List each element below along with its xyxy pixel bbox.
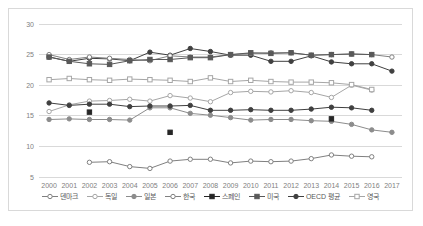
legend-item-label: 영국 — [367, 191, 379, 201]
legend-marker-icon — [288, 192, 304, 201]
data-point-marker — [269, 108, 273, 112]
data-point-marker — [370, 62, 374, 66]
legend-marker-icon — [204, 192, 220, 201]
data-point-marker — [269, 160, 273, 164]
data-point-marker — [269, 90, 273, 94]
data-point-marker — [47, 101, 51, 105]
data-point-marker — [168, 93, 172, 97]
data-point-marker — [228, 52, 232, 56]
data-point-marker — [269, 79, 273, 83]
y-axis-tick-label: 20 — [26, 82, 34, 89]
legend-item-3[interactable]: 일본 — [126, 191, 156, 201]
data-point-marker — [309, 118, 313, 122]
data-point-marker — [148, 77, 152, 81]
data-point-marker — [168, 57, 172, 61]
data-point-marker — [87, 117, 91, 121]
legend-item-1[interactable]: 덴마크 — [42, 191, 78, 201]
data-point-marker — [87, 102, 91, 106]
legend-item-6[interactable]: 미국 — [249, 191, 279, 201]
data-point-marker — [228, 79, 232, 83]
data-point-marker — [370, 87, 374, 91]
data-point-marker — [289, 51, 293, 55]
data-point-marker — [148, 50, 152, 54]
legend-marker-icon — [42, 192, 58, 201]
data-point-marker — [188, 157, 192, 161]
data-point-marker — [168, 104, 172, 108]
chart-container: 5101520253020002001200220032004200520062… — [8, 8, 413, 211]
data-point-marker — [349, 122, 353, 126]
data-point-marker — [87, 110, 91, 114]
data-point-marker — [370, 155, 374, 159]
data-point-marker — [390, 69, 394, 73]
data-point-marker — [349, 106, 353, 110]
data-point-marker — [87, 62, 91, 66]
data-point-marker — [87, 55, 91, 59]
data-point-marker — [188, 103, 192, 107]
data-point-marker — [107, 102, 111, 106]
data-point-marker — [349, 52, 353, 56]
data-point-marker — [148, 104, 152, 108]
data-point-marker — [309, 80, 313, 84]
data-point-marker — [228, 115, 232, 119]
data-point-marker — [390, 130, 394, 134]
series-영국 — [47, 76, 374, 92]
data-point-marker — [370, 52, 374, 56]
data-point-marker — [148, 99, 152, 103]
data-point-marker — [289, 59, 293, 63]
legend-item-5[interactable]: 스페인 — [204, 191, 240, 201]
data-point-marker — [289, 117, 293, 121]
y-axis-tick-label: 25 — [26, 51, 34, 58]
y-axis-tick-label: 5 — [30, 174, 34, 181]
legend-item-2[interactable]: 독일 — [87, 191, 117, 201]
data-point-marker — [67, 76, 71, 80]
data-point-marker — [269, 59, 273, 63]
legend-item-7[interactable]: OECD 평균 — [288, 191, 340, 201]
data-point-marker — [188, 96, 192, 100]
data-point-marker — [208, 100, 212, 104]
data-point-marker — [47, 109, 51, 113]
data-point-marker — [188, 79, 192, 83]
data-point-marker — [47, 117, 51, 121]
data-point-marker — [128, 118, 132, 122]
line-chart-plot: 5101520253020002001200220032004200520062… — [9, 9, 412, 210]
data-point-marker — [128, 164, 132, 168]
data-point-marker — [67, 103, 71, 107]
data-point-marker — [228, 108, 232, 112]
data-point-marker — [228, 90, 232, 94]
data-point-marker — [107, 56, 111, 60]
data-point-marker — [370, 128, 374, 132]
data-point-marker — [148, 166, 152, 170]
data-point-marker — [208, 157, 212, 161]
legend-marker-icon — [249, 192, 265, 201]
y-axis-tick-label: 15 — [26, 112, 34, 119]
data-point-marker — [128, 97, 132, 101]
data-point-marker — [390, 55, 394, 59]
data-point-marker — [168, 130, 172, 134]
data-point-marker — [329, 81, 333, 85]
data-point-marker — [208, 76, 212, 80]
data-point-marker — [107, 62, 111, 66]
legend-item-4[interactable]: 한국 — [165, 191, 195, 201]
data-point-marker — [289, 80, 293, 84]
data-point-marker — [269, 51, 273, 55]
data-point-marker — [47, 77, 51, 81]
data-point-marker — [349, 154, 353, 158]
data-point-marker — [289, 89, 293, 93]
data-point-marker — [249, 118, 253, 122]
data-point-marker — [309, 53, 313, 57]
legend-item-label: 미국 — [267, 191, 279, 201]
data-point-marker — [208, 49, 212, 53]
legend-item-label: OECD 평균 — [306, 191, 340, 201]
data-point-marker — [309, 156, 313, 160]
data-point-marker — [128, 77, 132, 81]
data-point-marker — [168, 78, 172, 82]
data-point-marker — [249, 51, 253, 55]
y-axis-tick-label: 10 — [26, 143, 34, 150]
legend-item-label: 덴마크 — [60, 191, 78, 201]
data-point-marker — [208, 113, 212, 117]
legend-item-8[interactable]: 영국 — [349, 191, 379, 201]
data-point-marker — [329, 117, 333, 121]
data-point-marker — [370, 108, 374, 112]
data-point-marker — [249, 159, 253, 163]
legend-item-label: 일본 — [144, 191, 156, 201]
